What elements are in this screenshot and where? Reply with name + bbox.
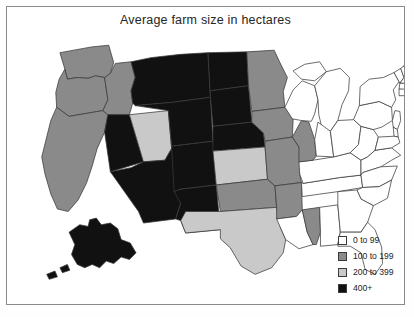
state-SD[interactable] <box>210 86 251 127</box>
legend-item-2[interactable]: 200 to 399 <box>338 264 404 280</box>
legend-swatch-2-icon <box>338 268 347 277</box>
legend-label-3: 400+ <box>353 284 372 293</box>
state-MT[interactable] <box>131 53 210 106</box>
state-CO[interactable] <box>172 141 217 191</box>
legend-swatch-1-icon <box>338 252 347 261</box>
state-MD[interactable] <box>375 136 400 150</box>
legend-label-1: 100 to 199 <box>353 252 394 261</box>
state-OK[interactable] <box>216 179 276 211</box>
figure-canvas: Average farm size in hectares <box>0 0 414 317</box>
state-CT[interactable] <box>399 89 404 96</box>
legend: 0 to 99 100 to 199 200 to 399 400+ <box>338 232 404 296</box>
legend-label-0: 0 to 99 <box>353 236 379 245</box>
state-MN[interactable] <box>247 50 288 111</box>
state-TX[interactable] <box>181 207 286 274</box>
legend-swatch-0-icon <box>338 236 347 245</box>
legend-label-2: 200 to 399 <box>353 268 394 277</box>
legend-item-3[interactable]: 400+ <box>338 280 404 296</box>
legend-swatch-3-icon <box>338 284 347 293</box>
state-CA[interactable] <box>42 107 108 211</box>
state-NJ[interactable] <box>392 111 400 130</box>
legend-item-0[interactable]: 0 to 99 <box>338 232 404 248</box>
state-AK[interactable] <box>47 218 136 279</box>
state-KS[interactable] <box>213 147 268 185</box>
state-WA[interactable] <box>60 45 114 79</box>
legend-item-1[interactable]: 100 to 199 <box>338 248 404 264</box>
state-WI[interactable] <box>285 81 318 122</box>
chart-title: Average farm size in hectares <box>6 13 405 27</box>
state-AR[interactable] <box>275 183 302 219</box>
